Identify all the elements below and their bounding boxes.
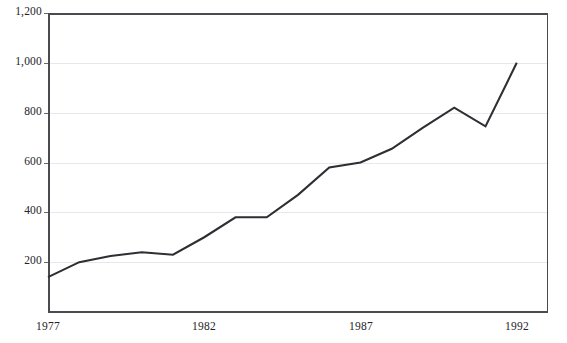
x-axis-label: 1992 (487, 320, 547, 332)
x-axis-label: 1977 (18, 320, 78, 332)
series-svg (0, 0, 567, 343)
chart-container: 2004006008001,0001,200 1977198219871992 (0, 0, 567, 343)
x-axis-label: 1982 (174, 320, 234, 332)
data-series-line (48, 63, 517, 277)
x-axis-label: 1987 (331, 320, 391, 332)
